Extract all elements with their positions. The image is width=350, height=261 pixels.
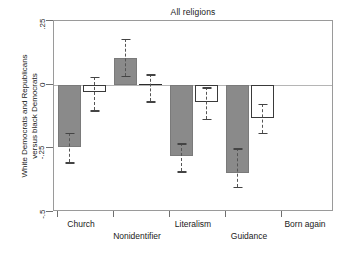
error-bar-cap-lower: [90, 110, 99, 111]
error-bar-line: [181, 143, 182, 171]
x-tick-mark: [225, 211, 226, 217]
error-bar-line: [150, 74, 151, 101]
y-tick-mark: [46, 147, 53, 148]
y-tick-label-text: -.25: [38, 146, 47, 160]
y-tick-label-text: -.5: [38, 210, 47, 219]
y-tick-mark: [46, 84, 53, 85]
error-bar-line: [237, 148, 238, 186]
x-tick-label-nonidentifier: Nonidentifier: [113, 231, 161, 241]
y-axis-label: White Democrats and Republicans versus b…: [18, 20, 40, 211]
error-bar-line: [69, 133, 70, 162]
plot-area: [53, 20, 333, 211]
chart-figure: All religions White Democrats and Republ…: [0, 0, 350, 261]
error-bar-cap-upper: [202, 87, 211, 88]
x-tick-mark: [281, 211, 282, 217]
error-bar-cap-upper: [121, 39, 130, 40]
error-bar-cap-upper: [177, 143, 186, 144]
x-tick-mark: [57, 211, 58, 217]
error-bar-line: [125, 39, 126, 76]
chart-title: All religions: [53, 7, 333, 17]
error-bar-cap-lower: [121, 76, 130, 77]
error-bar-cap-upper: [233, 148, 242, 149]
y-tick-mark: [46, 211, 53, 212]
error-bar-cap-lower: [233, 187, 242, 188]
error-bar-cap-upper: [258, 104, 267, 105]
x-tick-label-literalism: Literalism: [175, 219, 211, 229]
x-tick-label-born-again: Born again: [284, 219, 325, 229]
error-bar-line: [94, 77, 95, 110]
y-tick-label: -.25: [10, 141, 44, 153]
x-tick-mark: [113, 211, 114, 217]
error-bar-cap-lower: [177, 171, 186, 172]
error-bar-line: [262, 104, 263, 133]
error-bar-cap-upper: [65, 133, 74, 134]
x-tick-label-church: Church: [67, 219, 94, 229]
error-bar-cap-lower: [202, 119, 211, 120]
y-tick-label: -.5: [10, 205, 44, 217]
y-tick-label: .25: [10, 14, 44, 26]
error-bar-cap-upper: [146, 74, 155, 75]
error-bar-cap-lower: [65, 162, 74, 163]
error-bar-cap-lower: [146, 101, 155, 102]
y-tick-label: 0: [10, 78, 44, 90]
x-tick-mark: [169, 211, 170, 217]
error-bar-cap-lower: [258, 133, 267, 134]
y-tick-mark: [46, 20, 53, 21]
y-tick-label-text: 0: [38, 82, 47, 86]
y-tick-label-text: .25: [38, 19, 47, 30]
error-bar-cap-upper: [90, 77, 99, 78]
y-axis-label-line1: White Democrats and Republicans: [20, 54, 30, 177]
x-tick-label-guidance: Guidance: [231, 231, 267, 241]
error-bar-line: [206, 87, 207, 119]
